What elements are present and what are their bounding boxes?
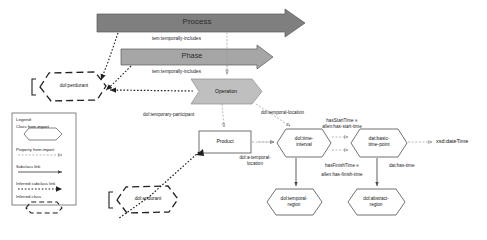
band-phase-label: Phase bbox=[121, 51, 263, 60]
legend-item-subclass-link: Subclass link bbox=[16, 164, 40, 169]
legend-item-class-from-import: Class from import bbox=[16, 124, 49, 129]
node-operation-label: Operation bbox=[196, 88, 256, 94]
node-dol-perdurant-label: dol:perdurant bbox=[44, 83, 104, 89]
band-process-label: Process bbox=[97, 17, 297, 26]
node-dol-abstract-region-line2: region bbox=[347, 202, 405, 208]
edge-product-to-endurant bbox=[118, 152, 199, 219]
edge-label-temporary-participant: dol:temporary-participant bbox=[143, 112, 194, 117]
node-product-label: Product bbox=[199, 138, 251, 144]
legend-item-inferred-class: Inferred class bbox=[16, 194, 41, 199]
edge-label-temporally-includes-2: tem:temporally-includes bbox=[152, 69, 201, 74]
edge-label-has-finish-time-line2: allen:has-finish-time bbox=[302, 172, 382, 177]
edge-label-has-start-time-line2: allen:has-start-time bbox=[304, 124, 380, 129]
edge-label-temporal-location: dol:temporal-location bbox=[261, 110, 304, 115]
node-xsd-datetime-label: xsd:dateTime bbox=[436, 138, 468, 144]
edge-label-a-temporal-location-line1: dol:a-temporal- bbox=[222, 155, 288, 160]
node-dol-endurant-label: dol:endurant bbox=[120, 196, 176, 202]
edge-label-has-start-time-line1: hasStartTime ≡ bbox=[306, 118, 378, 123]
node-dol-temporal-region-line2: region bbox=[265, 202, 323, 208]
node-dat-basic-time-point-line2: time-point bbox=[351, 142, 407, 148]
diagram-canvas bbox=[0, 0, 487, 240]
edge-phase-to-perdurant bbox=[106, 66, 131, 90]
edge-process-to-perdurant bbox=[101, 33, 118, 80]
legend-title: Legend: bbox=[16, 117, 32, 122]
edge-label-dat-has-time: dat:has-time bbox=[389, 163, 415, 168]
node-dol-time-interval-line2: interval bbox=[277, 142, 331, 148]
edge-label-temporally-includes-1: tem:temporally-includes bbox=[152, 36, 201, 41]
legend-hexagon-solid bbox=[24, 128, 62, 140]
edge-label-has-finish-time-line1: hasFinishTime ≡ bbox=[304, 163, 380, 168]
legend-item-inferred-subclass-link: Inferred subclass link bbox=[16, 181, 55, 186]
edge-temporary-participant bbox=[222, 104, 224, 127]
edge-operation-to-perdurant bbox=[110, 90, 193, 91]
legend-item-property-from-import: Property from import bbox=[16, 147, 54, 152]
edge-label-a-temporal-location-line2: location bbox=[222, 161, 288, 166]
